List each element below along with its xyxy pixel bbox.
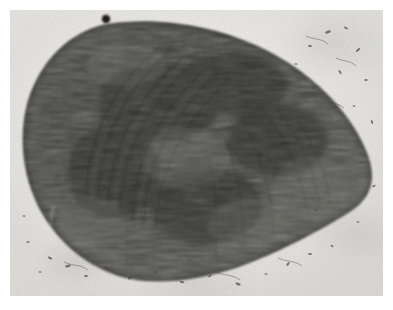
micrograph-plate xyxy=(10,10,383,296)
film-grain xyxy=(10,10,383,296)
micrograph-figure xyxy=(0,0,393,310)
